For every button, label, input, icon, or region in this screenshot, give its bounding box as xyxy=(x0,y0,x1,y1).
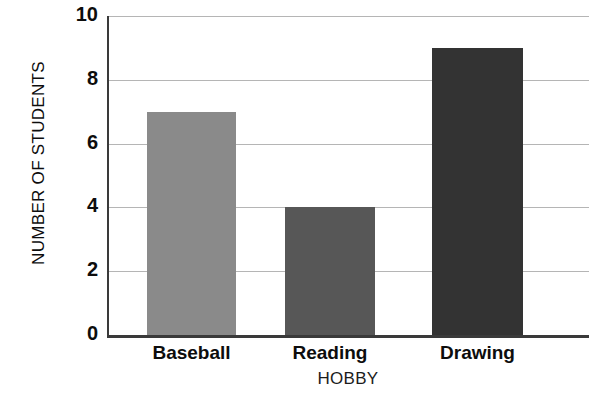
x-tick-label-baseball: Baseball xyxy=(117,340,266,366)
bar-drawing[interactable] xyxy=(432,48,523,335)
plot-area xyxy=(107,16,589,335)
x-tick-label-drawing: Drawing xyxy=(402,340,553,366)
x-axis-title: HOBBY xyxy=(107,368,589,390)
gridline xyxy=(107,16,589,17)
y-axis-tick-labels: 0246810 xyxy=(46,0,98,411)
bar-chart: NUMBER OF STUDENTS 0246810 BaseballReadi… xyxy=(0,0,589,411)
y-axis-line xyxy=(107,16,109,337)
bar-reading[interactable] xyxy=(285,207,375,335)
y-tick-label: 6 xyxy=(52,132,98,152)
y-tick-label: 10 xyxy=(52,4,98,24)
y-tick-label: 8 xyxy=(52,68,98,88)
y-tick-label: 0 xyxy=(52,323,98,343)
x-axis-line xyxy=(107,335,589,338)
y-tick-label: 4 xyxy=(52,195,98,215)
y-tick-label: 2 xyxy=(52,259,98,279)
x-tick-label-reading: Reading xyxy=(255,340,405,366)
x-axis-tick-labels: BaseballReadingDrawing xyxy=(107,340,589,366)
bar-baseball[interactable] xyxy=(147,112,236,335)
